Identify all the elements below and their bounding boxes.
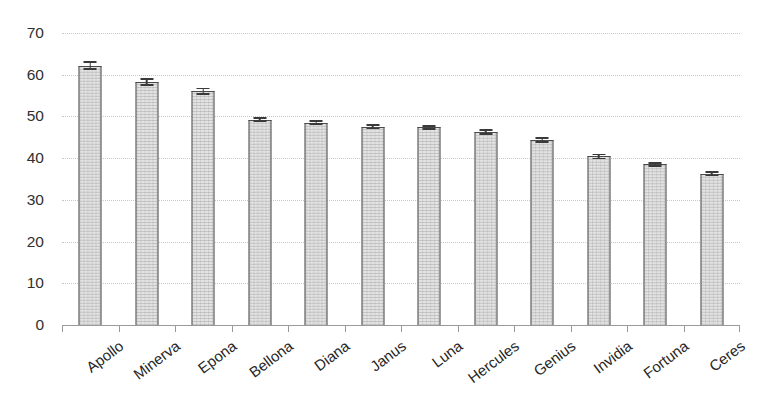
- x-axis-tick: [62, 325, 63, 332]
- error-bar: [649, 162, 662, 167]
- bar: [418, 127, 441, 325]
- error-bar-cap-bottom: [366, 128, 379, 130]
- bar: [531, 140, 554, 325]
- bar: [474, 132, 497, 325]
- bar: [248, 120, 271, 325]
- error-bar-cap-top: [84, 61, 97, 63]
- x-axis-tick: [288, 325, 289, 332]
- error-bar-cap-top: [705, 171, 718, 173]
- error-bar: [253, 117, 266, 122]
- error-bar: [592, 154, 605, 160]
- bar: [587, 156, 610, 325]
- error-bar-cap-bottom: [423, 128, 436, 130]
- error-bar-cap-top: [366, 124, 379, 126]
- y-axis-tick-label: 60: [0, 67, 44, 83]
- error-bar-cap-bottom: [479, 133, 492, 135]
- bar: [644, 164, 667, 325]
- error-bar: [197, 88, 210, 96]
- error-bar-cap-top: [310, 120, 323, 122]
- error-bar-cap-bottom: [197, 93, 210, 95]
- bar-group: [571, 33, 628, 325]
- x-axis-tick: [401, 325, 402, 332]
- y-axis-tick-label: 20: [0, 234, 44, 250]
- bar: [79, 66, 102, 325]
- bar-group: [62, 33, 119, 325]
- error-bar: [479, 129, 492, 135]
- x-axis-tick: [627, 325, 628, 332]
- x-axis-tick: [739, 325, 740, 332]
- y-axis-tick-label: 30: [0, 192, 44, 208]
- bar-group: [288, 33, 345, 325]
- error-bar-cap-top: [423, 125, 436, 127]
- error-bar-cap-bottom: [310, 123, 323, 125]
- plot-area: [62, 33, 740, 325]
- bar: [361, 127, 384, 325]
- x-axis-tick: [232, 325, 233, 332]
- error-bar-cap-top: [536, 137, 549, 139]
- bar-group: [175, 33, 232, 325]
- error-bar-cap-bottom: [649, 165, 662, 167]
- error-bar-cap-top: [197, 88, 210, 90]
- error-bar-cap-bottom: [536, 141, 549, 143]
- x-axis-tick: [571, 325, 572, 332]
- bar: [700, 174, 723, 325]
- error-bar: [140, 78, 153, 86]
- error-bar-cap-bottom: [705, 175, 718, 177]
- error-bar-cap-top: [649, 162, 662, 164]
- error-bar-cap-top: [479, 129, 492, 131]
- error-bar-cap-top: [140, 78, 153, 80]
- bar-group: [684, 33, 741, 325]
- bar: [305, 123, 328, 325]
- error-bar-cap-bottom: [84, 68, 97, 70]
- x-axis-tick: [119, 325, 120, 332]
- y-axis-tick-label: 0: [0, 317, 44, 333]
- error-bar-cap-top: [253, 117, 266, 119]
- error-bar: [423, 125, 436, 130]
- error-bar: [705, 171, 718, 176]
- x-axis-tick: [345, 325, 346, 332]
- bar-chart: 010203040506070 ApolloMinervaEponaBellon…: [0, 0, 773, 413]
- y-axis-tick-label: 50: [0, 108, 44, 124]
- bar-group: [401, 33, 458, 325]
- x-axis-tick: [684, 325, 685, 332]
- x-axis-tick: [458, 325, 459, 332]
- error-bar-cap-bottom: [592, 158, 605, 160]
- error-bar: [310, 120, 323, 125]
- bar-group: [458, 33, 515, 325]
- x-axis-tick: [175, 325, 176, 332]
- error-bar: [84, 61, 97, 70]
- bar-group: [119, 33, 176, 325]
- error-bar-cap-bottom: [140, 84, 153, 86]
- bar-group: [627, 33, 684, 325]
- x-axis: [62, 325, 740, 326]
- x-axis-labels: ApolloMinervaEponaBellonaDianaJanusLunaH…: [62, 333, 740, 413]
- bars-layer: [62, 33, 740, 325]
- y-axis-tick-label: 40: [0, 150, 44, 166]
- y-axis-labels: 010203040506070: [0, 0, 50, 413]
- bar-group: [514, 33, 571, 325]
- error-bar: [536, 137, 549, 143]
- error-bar-cap-bottom: [253, 120, 266, 122]
- bar: [192, 91, 215, 325]
- y-axis-tick-label: 10: [0, 275, 44, 291]
- error-bar: [366, 124, 379, 129]
- x-axis-tick: [514, 325, 515, 332]
- y-axis-tick-label: 70: [0, 25, 44, 41]
- error-bar-cap-top: [592, 154, 605, 156]
- bar: [135, 82, 158, 325]
- bar-group: [345, 33, 402, 325]
- bar-group: [232, 33, 289, 325]
